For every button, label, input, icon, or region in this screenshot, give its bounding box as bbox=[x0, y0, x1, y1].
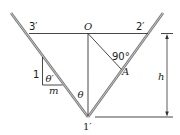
right-rod bbox=[88, 13, 163, 117]
label-side-1: 1 bbox=[33, 69, 39, 80]
v-groove-diagram: 3′ O 2′ 90° A 1 θ′ m θ 1′ h bbox=[0, 0, 180, 135]
label-theta-prime: θ′ bbox=[46, 73, 55, 84]
label-3prime: 3′ bbox=[29, 21, 38, 32]
label-theta: θ bbox=[78, 89, 84, 100]
label-O: O bbox=[84, 21, 92, 32]
label-2prime: 2′ bbox=[136, 21, 145, 32]
label-1prime: 1′ bbox=[83, 121, 92, 132]
label-90deg: 90° bbox=[112, 51, 130, 62]
label-m: m bbox=[49, 85, 58, 96]
label-h: h bbox=[158, 71, 164, 82]
label-A: A bbox=[121, 66, 129, 77]
left-rod bbox=[11, 13, 88, 117]
